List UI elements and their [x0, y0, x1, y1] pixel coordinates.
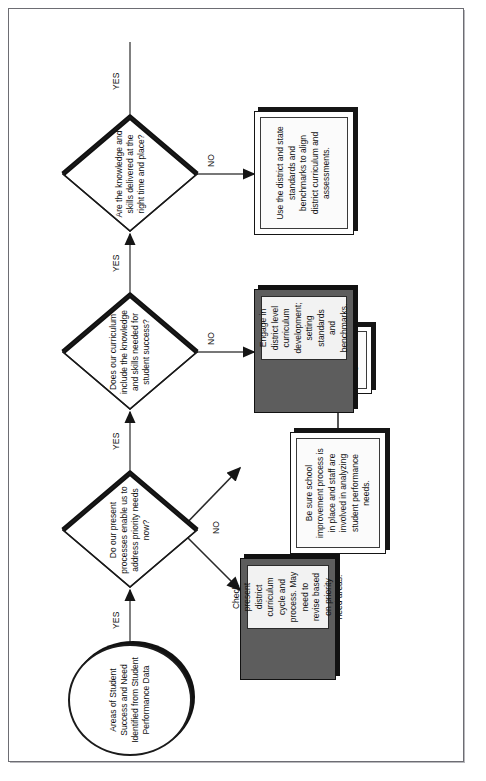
- decision-1-label: Do our present processes enable us to ad…: [60, 470, 200, 590]
- flowchart-page: Areas of Student Success and Need Identi…: [0, 0, 486, 781]
- process-4-inner-panel: Engage in district level curriculum deve…: [261, 296, 347, 360]
- process-2-label: Be sure school improvement process is in…: [304, 439, 373, 547]
- start-node-label: Areas of Student Success and Need Identi…: [108, 646, 152, 754]
- diagram-viewport: Areas of Student Success and Need Identi…: [8, 8, 464, 762]
- process-5-label: Use the district and state standards and…: [275, 118, 333, 228]
- edge-label-no-1: NO: [211, 521, 221, 534]
- decision-2-label: Does our curriculum include the knowledg…: [60, 292, 200, 412]
- decision-present-processes[interactable]: Do our present processes enable us to ad…: [60, 470, 200, 590]
- process-district-curriculum-development[interactable]: Engage in district level curriculum deve…: [254, 289, 354, 413]
- edge-label-yes-1: YES: [111, 611, 121, 629]
- decision-curriculum-knowledge-skills[interactable]: Does our curriculum include the knowledg…: [60, 292, 200, 412]
- flowchart-canvas: Areas of Student Success and Need Identi…: [8, 8, 464, 762]
- edge-label-yes-3: YES: [111, 254, 121, 272]
- process-1-inner-panel: Check present district curriculum cycle …: [247, 565, 329, 629]
- decision-3-label: Are the knowledge and skills delivered a…: [60, 114, 200, 234]
- edge-label-yes-2: YES: [111, 432, 121, 450]
- edge-label-yes-final: YES: [111, 72, 121, 90]
- process-2-inner-panel: Be sure school improvement process is in…: [296, 438, 380, 548]
- process-align-standards-assessments[interactable]: Use the district and state standards and…: [254, 111, 354, 235]
- process-check-curriculum-cycle[interactable]: Check present district curriculum cycle …: [240, 558, 336, 680]
- process-1-label: Check present district curriculum cycle …: [231, 566, 346, 628]
- process-school-improvement-staff[interactable]: Be sure school improvement process is in…: [290, 432, 386, 554]
- edge-label-no-3: NO: [206, 154, 216, 167]
- start-node-student-data[interactable]: Areas of Student Success and Need Identi…: [68, 644, 192, 756]
- process-5-inner-panel: Use the district and state standards and…: [260, 117, 348, 229]
- edge-label-no-2: NO: [206, 332, 216, 345]
- decision-delivery-time-place[interactable]: Are the knowledge and skills delivered a…: [60, 114, 200, 234]
- process-4-label: Engage in district level curriculum deve…: [258, 297, 350, 359]
